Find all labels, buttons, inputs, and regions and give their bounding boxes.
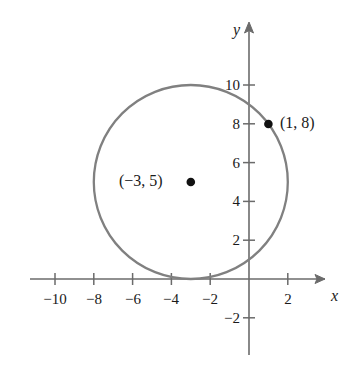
- y-axis: [245, 22, 254, 355]
- y-axis-label: y: [233, 22, 240, 38]
- center-point-label: (−3, 5): [119, 173, 163, 189]
- x-tick-label--10: −10: [43, 292, 66, 307]
- y-tick-label-4: 4: [233, 194, 241, 209]
- y-tick-label-10: 10: [225, 78, 240, 93]
- circle-graph-figure: −10 −8 −6 −4 −2 2 −2 2 4 6 8 10 x y (−3,…: [0, 0, 356, 373]
- y-tick-label--2: −2: [224, 311, 240, 326]
- coordinate-plane-svg: [0, 0, 356, 373]
- circle-point-marker: [264, 120, 273, 129]
- x-tick-label-2: 2: [284, 292, 292, 307]
- x-tick-label--6: −6: [125, 292, 141, 307]
- y-tick-label-8: 8: [233, 117, 241, 132]
- x-axis-label: x: [331, 288, 338, 304]
- y-tick-label-2: 2: [233, 233, 241, 248]
- x-tick-label--8: −8: [86, 292, 102, 307]
- y-tick-label-6: 6: [233, 156, 241, 171]
- x-tick-label--4: −4: [163, 292, 179, 307]
- circle-point-label: (1, 8): [280, 115, 315, 131]
- x-tick-label--2: −2: [202, 292, 218, 307]
- center-point-marker: [187, 178, 196, 187]
